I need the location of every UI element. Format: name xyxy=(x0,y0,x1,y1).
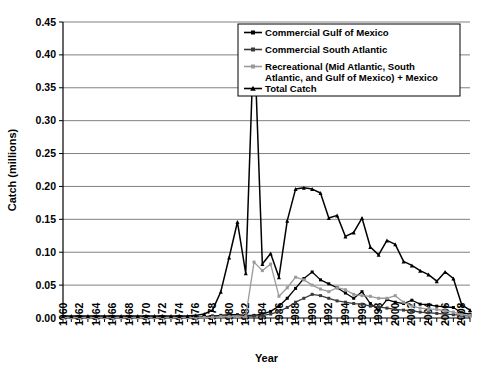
x-tick-label: 1996 xyxy=(356,302,368,326)
series-marker-2 xyxy=(385,297,388,300)
series-marker-0 xyxy=(286,297,289,300)
series-marker-0 xyxy=(311,270,314,273)
series-marker-2 xyxy=(377,297,380,300)
series-marker-2 xyxy=(244,315,247,318)
legend-marker-2 xyxy=(251,65,255,69)
x-tick-label: 1990 xyxy=(306,302,318,326)
series-marker-3 xyxy=(244,271,248,275)
series-marker-0 xyxy=(410,299,413,302)
series-marker-3 xyxy=(227,255,231,259)
series-marker-2 xyxy=(402,301,405,304)
series-marker-1 xyxy=(385,307,388,310)
series-marker-1 xyxy=(402,309,405,312)
y-tick-label: 0.35 xyxy=(36,81,57,93)
x-tick-label: 1964 xyxy=(90,302,102,326)
series-marker-2 xyxy=(410,305,413,308)
series-marker-2 xyxy=(435,308,438,311)
series-marker-0 xyxy=(369,302,372,305)
series-marker-0 xyxy=(419,303,422,306)
series-marker-0 xyxy=(277,305,280,308)
y-tick-label: 0.20 xyxy=(36,180,57,192)
series-marker-2 xyxy=(261,269,264,272)
y-tick-label: 0.40 xyxy=(36,48,57,60)
series-marker-1 xyxy=(327,297,330,300)
y-tick-label: 0.00 xyxy=(36,312,57,324)
series-marker-1 xyxy=(253,315,256,318)
legend-label-3: Atlantic, and Gulf of Mexico) + Mexico xyxy=(265,72,438,83)
y-tick-label: 0.10 xyxy=(36,246,57,258)
series-marker-1 xyxy=(427,311,430,314)
x-tick-label: 1992 xyxy=(322,302,334,326)
series-marker-1 xyxy=(294,301,297,304)
series-marker-0 xyxy=(394,301,397,304)
series-marker-0 xyxy=(352,297,355,300)
y-tick-label: 0.25 xyxy=(36,147,57,159)
series-marker-2 xyxy=(460,313,463,316)
series-marker-2 xyxy=(361,294,364,297)
series-marker-0 xyxy=(344,292,347,295)
series-marker-1 xyxy=(277,310,280,313)
series-marker-2 xyxy=(253,261,256,264)
catch-line-chart: 0.000.050.100.150.200.250.300.350.400.45… xyxy=(0,0,489,370)
series-marker-2 xyxy=(211,316,214,319)
series-marker-2 xyxy=(203,316,206,319)
x-tick-label: 1960 xyxy=(57,302,69,326)
x-axis-title: Year xyxy=(255,352,279,364)
y-axis-title: Catch (millions) xyxy=(6,128,18,211)
series-marker-2 xyxy=(369,295,372,298)
series-marker-1 xyxy=(269,313,272,316)
series-marker-1 xyxy=(286,306,289,309)
series-marker-2 xyxy=(311,284,314,287)
y-tick-label: 0.30 xyxy=(36,114,57,126)
series-marker-2 xyxy=(319,288,322,291)
series-marker-2 xyxy=(269,263,272,266)
x-tick-label: 1966 xyxy=(106,302,118,326)
x-tick-label: 1988 xyxy=(289,302,301,326)
series-marker-2 xyxy=(286,286,289,289)
series-marker-3 xyxy=(219,290,223,294)
series-marker-2 xyxy=(327,290,330,293)
series-marker-0 xyxy=(319,278,322,281)
series-marker-1 xyxy=(435,312,438,315)
series-marker-2 xyxy=(452,311,455,314)
series-marker-0 xyxy=(269,310,272,313)
series-marker-1 xyxy=(344,301,347,304)
series-marker-2 xyxy=(469,314,472,317)
series-marker-2 xyxy=(277,295,280,298)
series-marker-1 xyxy=(410,309,413,312)
series-marker-0 xyxy=(435,305,438,308)
x-tick-label: 1972 xyxy=(156,302,168,326)
legend-marker-1 xyxy=(251,48,255,52)
series-marker-2 xyxy=(294,276,297,279)
y-tick-label: 0.15 xyxy=(36,213,57,225)
series-marker-1 xyxy=(377,305,380,308)
series-marker-0 xyxy=(377,309,380,312)
series-marker-2 xyxy=(302,278,305,281)
x-tick-label: 1994 xyxy=(339,302,351,326)
y-tick-label: 0.45 xyxy=(36,16,57,28)
y-tick-label: 0.05 xyxy=(36,279,57,291)
series-marker-0 xyxy=(294,287,297,290)
series-marker-2 xyxy=(352,293,355,296)
series-marker-2 xyxy=(444,309,447,312)
series-marker-2 xyxy=(394,294,397,297)
legend-label-1: Commercial South Atlantic xyxy=(265,44,388,55)
legend-label-2: Recreational (Mid Atlantic, South xyxy=(265,61,415,72)
series-marker-0 xyxy=(361,290,364,293)
series-marker-1 xyxy=(444,313,447,316)
series-marker-1 xyxy=(419,311,422,314)
chart-figure: 0.000.050.100.150.200.250.300.350.400.45… xyxy=(0,0,489,370)
x-tick-label: 1968 xyxy=(123,302,135,326)
series-marker-3 xyxy=(277,275,281,279)
series-marker-1 xyxy=(352,302,355,305)
series-marker-1 xyxy=(336,299,339,302)
series-marker-3 xyxy=(368,245,372,249)
x-tick-label: 1962 xyxy=(73,302,85,326)
series-marker-0 xyxy=(444,305,447,308)
series-marker-1 xyxy=(311,293,314,296)
legend-label-4: Total Catch xyxy=(265,83,317,94)
series-marker-0 xyxy=(427,303,430,306)
series-marker-0 xyxy=(452,306,455,309)
x-tick-label: 1974 xyxy=(173,302,185,326)
series-marker-1 xyxy=(394,308,397,311)
